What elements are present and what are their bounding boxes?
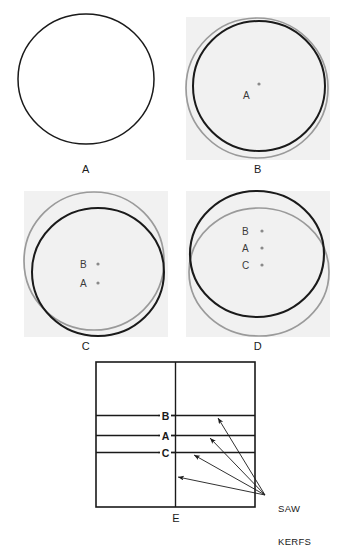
dot-label-a: A xyxy=(242,243,249,254)
black-circle xyxy=(18,14,154,144)
dot-label-b: B xyxy=(80,259,87,270)
panel-b-drawing: A xyxy=(172,0,344,163)
reference-dot-b xyxy=(260,229,263,232)
saw-kerfs-annotation: SAW KERFS xyxy=(278,481,311,549)
reference-dot-a xyxy=(260,246,263,249)
panel-a-drawing xyxy=(0,0,172,160)
kerf-label-c: C xyxy=(162,447,170,459)
panel-a: A xyxy=(0,0,172,180)
panel-d-drawing: B A C xyxy=(172,180,344,343)
dot-label-a: A xyxy=(80,278,87,289)
saw-kerf-arrow-2 xyxy=(210,438,265,495)
panel-d: B A C D xyxy=(172,180,344,360)
panel-c-label: C xyxy=(0,340,172,352)
reference-dot-a xyxy=(257,82,260,85)
panel-e: B A C E SAW KERFS xyxy=(0,355,344,540)
reference-dot-c xyxy=(260,263,263,266)
dot-label-b: B xyxy=(242,226,249,237)
panel-d-label: D xyxy=(172,340,344,352)
panel-c-drawing: B A xyxy=(0,180,172,343)
dot-label-a: A xyxy=(243,90,250,101)
saw-kerfs-line-2: KERFS xyxy=(278,536,311,547)
saw-kerfs-line-1: SAW xyxy=(278,503,311,514)
panel-b: A B xyxy=(172,0,344,180)
panel-a-label: A xyxy=(0,163,172,175)
panel-b-label: B xyxy=(172,163,344,175)
reference-dot-a xyxy=(96,281,99,284)
kerf-label-b: B xyxy=(162,410,170,422)
saw-kerf-arrow-4 xyxy=(178,477,265,495)
dot-label-c: C xyxy=(242,260,249,271)
panel-c: B A C xyxy=(0,180,172,360)
saw-kerf-arrow-1 xyxy=(218,418,265,495)
kerf-label-a: A xyxy=(162,430,170,442)
panel-e-label: E xyxy=(172,512,179,524)
reference-dot-b xyxy=(96,262,99,265)
